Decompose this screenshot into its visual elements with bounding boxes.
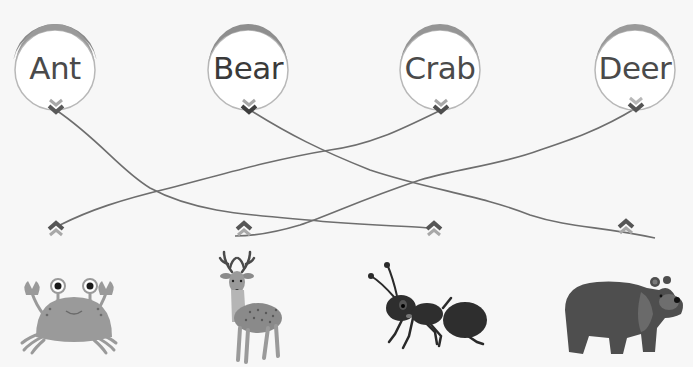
word-label: Ant bbox=[7, 50, 103, 86]
chevron-down-icon[interactable] bbox=[238, 98, 260, 116]
connection-line-ant[interactable] bbox=[56, 110, 428, 228]
word-label: Bear bbox=[200, 50, 296, 86]
chevron-up-icon[interactable] bbox=[233, 219, 255, 237]
chevron-up-icon[interactable] bbox=[423, 219, 445, 237]
deer-image[interactable] bbox=[218, 250, 298, 365]
matching-game-stage: Ant Bear Crab Deer bbox=[0, 0, 693, 367]
bear-image[interactable] bbox=[557, 270, 687, 360]
connection-line-bear[interactable] bbox=[250, 110, 655, 238]
chevron-up-icon[interactable] bbox=[45, 219, 67, 237]
chevron-down-icon[interactable] bbox=[430, 98, 452, 116]
word-label: Crab bbox=[392, 50, 488, 86]
ant-image[interactable] bbox=[365, 262, 490, 357]
connection-line-deer[interactable] bbox=[235, 108, 636, 236]
connection-line-crab[interactable] bbox=[60, 110, 441, 225]
chevron-up-icon[interactable] bbox=[615, 217, 637, 235]
word-label: Deer bbox=[587, 50, 683, 86]
chevron-down-icon[interactable] bbox=[45, 98, 67, 116]
chevron-down-icon[interactable] bbox=[625, 96, 647, 114]
crab-image[interactable] bbox=[14, 275, 124, 355]
